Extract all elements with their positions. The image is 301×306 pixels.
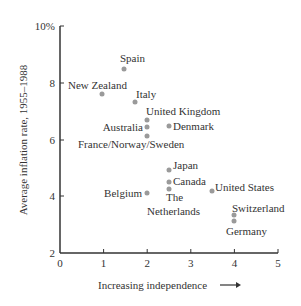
label-new-zealand: New Zealand [68, 79, 127, 91]
label-spain: Spain [120, 52, 146, 64]
y-tick-label: 6 [50, 134, 56, 146]
x-tick-label: 1 [101, 257, 107, 269]
x-tick-label: 5 [275, 257, 281, 269]
scatter-chart: 10% 8 6 4 2 0 1 2 3 4 5 Increasing indep… [0, 0, 301, 306]
y-tick-label: 4 [50, 190, 56, 202]
arrow-right-icon [220, 282, 241, 288]
label-united-kingdom: United Kingdom [146, 105, 221, 117]
point-belgium [145, 191, 150, 196]
label-switzerland: Switzerland [232, 202, 285, 214]
label-japan: Japan [173, 159, 199, 171]
point-germany [232, 219, 237, 224]
label-australia: Australia [103, 121, 143, 133]
point-new-zealand [100, 92, 105, 97]
label-france-norway-sweden: France/Norway/Sweden [78, 138, 185, 150]
point-united-states [210, 189, 215, 194]
point-japan [167, 168, 172, 173]
x-tick-label: 3 [188, 257, 194, 269]
y-axis-title: Average inflation rate, 1955–1988 [17, 64, 29, 215]
y-tick-label: 2 [50, 247, 56, 259]
y-tick-label: 8 [50, 77, 56, 89]
label-italy: Italy [136, 88, 157, 100]
label-denmark: Denmark [173, 120, 214, 132]
label-canada: Canada [173, 175, 206, 187]
x-axis-title: Increasing independence [98, 279, 207, 291]
label-germany: Germany [226, 225, 267, 237]
point-spain [122, 67, 127, 72]
point-italy [133, 100, 138, 105]
point-united-kingdom [145, 118, 150, 123]
x-tick-label: 0 [57, 257, 63, 269]
y-tick-label: 10% [35, 20, 55, 32]
x-tick-label: 4 [232, 257, 238, 269]
label-the: The [166, 191, 183, 203]
point-canada [167, 180, 172, 185]
label-united-states: United States [215, 181, 274, 193]
label-netherlands: Netherlands [147, 205, 200, 217]
label-belgium: Belgium [104, 187, 142, 199]
point-australia [145, 125, 150, 130]
point-denmark [167, 124, 172, 129]
x-tick-label: 2 [144, 257, 150, 269]
